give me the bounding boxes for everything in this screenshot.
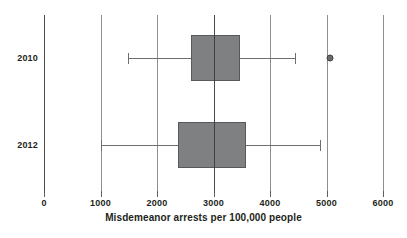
category-label-2012: 2012 [17, 140, 38, 150]
gridline-0 [44, 15, 45, 191]
x-tick-label-4000: 4000 [260, 198, 281, 208]
box-2012 [178, 122, 246, 168]
x-tick-label-6000: 6000 [373, 198, 394, 208]
x-tick-mark-2000 [157, 191, 158, 197]
median-line-2010 [214, 35, 215, 81]
x-axis-title: Misdemeanor arrests per 100,000 people [0, 212, 407, 223]
x-tick-label-5000: 5000 [316, 198, 337, 208]
x-tick-mark-5000 [327, 191, 328, 197]
x-tick-mark-1000 [101, 191, 102, 197]
x-tick-label-2000: 2000 [147, 198, 168, 208]
box-plot-chart: 010002000300040005000600020102012 Misdem… [0, 0, 407, 238]
x-tick-label-0: 0 [41, 198, 46, 208]
x-tick-mark-3000 [214, 191, 215, 197]
whisker-cap-low-2012 [101, 140, 102, 151]
gridline-2000 [157, 15, 158, 191]
x-tick-mark-6000 [383, 191, 384, 197]
box-2010 [191, 35, 240, 81]
outlier-point-2010-0 [326, 55, 333, 62]
gridline-1000 [101, 15, 102, 191]
whisker-cap-high-2012 [320, 140, 321, 151]
median-line-2012 [214, 122, 215, 168]
gridline-4000 [270, 15, 271, 191]
category-label-2010: 2010 [17, 53, 38, 63]
x-tick-label-3000: 3000 [203, 198, 224, 208]
gridline-5000 [327, 15, 328, 191]
whisker-cap-low-2010 [128, 53, 129, 64]
x-tick-mark-0 [44, 191, 45, 197]
x-tick-mark-4000 [270, 191, 271, 197]
plot-area: 010002000300040005000600020102012 [0, 0, 407, 238]
gridline-6000 [383, 15, 384, 191]
x-tick-label-1000: 1000 [90, 198, 111, 208]
whisker-cap-high-2010 [295, 53, 296, 64]
